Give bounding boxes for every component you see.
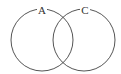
set-c-label: C [81, 4, 88, 16]
set-a-label: A [38, 4, 46, 16]
venn-diagram: A C [0, 0, 121, 74]
set-a-circle [11, 9, 73, 71]
set-c-circle [53, 9, 115, 71]
